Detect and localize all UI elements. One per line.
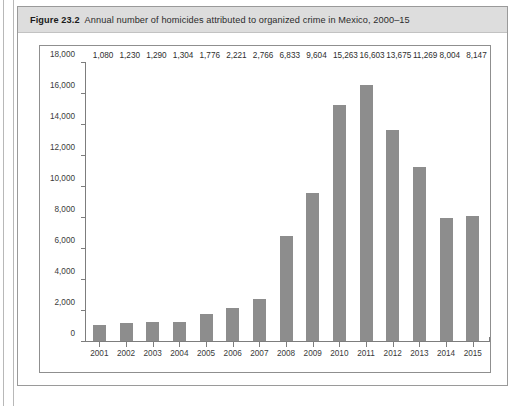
bar-value-label: 9,604 (306, 52, 327, 60)
x-axis-tick (179, 342, 180, 347)
bar[interactable]: 2,221 (226, 308, 239, 342)
x-axis-end-cap (489, 337, 490, 342)
bar[interactable]: 11,269 (413, 167, 426, 342)
x-axis-tick-label: 2005 (197, 349, 215, 358)
x-axis-tick (99, 342, 100, 347)
x-axis-tick-label: 2012 (384, 349, 402, 358)
figure-caption: Figure 23.2Annual number of homicides at… (30, 15, 410, 25)
x-axis-tick-label: 2015 (464, 349, 482, 358)
x-axis-tick (313, 342, 314, 347)
x-axis-tick (206, 342, 207, 347)
y-axis-tick-label: 10,000 (50, 174, 75, 183)
bar[interactable]: 6,833 (280, 236, 293, 342)
figure-container: Figure 23.2Annual number of homicides at… (17, 6, 508, 386)
x-axis-tick (233, 342, 234, 347)
x-axis-tick-label: 2009 (304, 349, 322, 358)
bar[interactable]: 1,304 (173, 322, 186, 342)
x-axis-tick (286, 342, 287, 347)
bar-slot: 2,2212006 (219, 63, 246, 342)
y-axis-tick-label: 18,000 (50, 50, 75, 59)
bar[interactable]: 1,290 (146, 322, 159, 342)
bar[interactable]: 8,147 (466, 216, 479, 342)
bar-slot: 1,2302002 (113, 63, 140, 342)
y-axis-tick-label: 4,000 (55, 267, 76, 276)
x-axis-tick (339, 342, 340, 347)
y-axis-tick-label: 2,000 (55, 298, 76, 307)
page-spine-outer-rule (3, 0, 4, 406)
bar-slot: 9,6042009 (299, 63, 326, 342)
x-axis-tick-label: 2003 (144, 349, 162, 358)
x-axis-tick-label: 2001 (90, 349, 108, 358)
x-axis-tick (259, 342, 260, 347)
x-axis-tick-label: 2010 (330, 349, 348, 358)
x-axis-tick (153, 342, 154, 347)
page-spine-inner-rule (13, 0, 14, 406)
y-axis-tick-label: 8,000 (55, 205, 76, 214)
chart-frame: 18,00016,00014,00012,00010,0008,0006,000… (39, 45, 491, 373)
bar[interactable]: 15,263 (333, 105, 346, 342)
bar[interactable]: 9,604 (306, 193, 319, 342)
bar-slot: 13,6752012 (379, 63, 406, 342)
x-axis-tick-label: 2011 (357, 349, 375, 358)
bar-value-label: 1,230 (120, 52, 141, 60)
bar[interactable]: 13,675 (386, 130, 399, 342)
x-axis-tick (366, 342, 367, 347)
bar-slot: 8,0042014 (433, 63, 460, 342)
bar[interactable]: 8,004 (440, 218, 453, 342)
y-axis-tick-label: 14,000 (50, 112, 75, 121)
y-axis-tick-label: 12,000 (50, 143, 75, 152)
bar[interactable]: 16,603 (360, 85, 373, 342)
x-axis-tick (419, 342, 420, 347)
plot-area: 18,00016,00014,00012,00010,0008,0006,000… (85, 63, 486, 342)
bar-value-label: 8,004 (440, 52, 461, 60)
y-axis-tick-label: 16,000 (50, 81, 75, 90)
bar-slot: 16,6032011 (353, 63, 380, 342)
bar-slot: 1,2902003 (139, 63, 166, 342)
bar-value-label: 15,263 (333, 52, 358, 60)
bar-value-label: 16,603 (360, 52, 385, 60)
y-axis-tick-label: 6,000 (55, 236, 76, 245)
figure-number: Figure 23.2 (30, 15, 80, 25)
bar-slot: 1,3042004 (166, 63, 193, 342)
bar[interactable]: 1,230 (120, 323, 133, 342)
figure-header-band: Figure 23.2Annual number of homicides at… (18, 7, 507, 33)
bar-value-label: 1,304 (173, 52, 194, 60)
x-axis-line (85, 341, 490, 342)
y-axis-tick-label: 0 (70, 329, 75, 338)
bar-value-label: 8,147 (466, 52, 487, 60)
bar-value-label: 1,080 (93, 52, 114, 60)
bar-value-label: 1,290 (146, 52, 167, 60)
bar-slot: 6,8332008 (273, 63, 300, 342)
bar-value-label: 13,675 (386, 52, 411, 60)
bar-value-label: 2,766 (253, 52, 274, 60)
x-axis-tick-label: 2007 (250, 349, 268, 358)
bar-slot: 8,1472015 (459, 63, 486, 342)
x-axis-tick-label: 2006 (224, 349, 242, 358)
bar[interactable]: 1,080 (93, 325, 106, 342)
bar-value-label: 2,221 (226, 52, 247, 60)
bar-value-label: 1,776 (200, 52, 221, 60)
x-axis-tick-label: 2002 (117, 349, 135, 358)
x-axis-tick (446, 342, 447, 347)
x-axis-tick (393, 342, 394, 347)
bar-value-label: 6,833 (280, 52, 301, 60)
x-axis-tick-label: 2013 (410, 349, 428, 358)
x-axis-tick (126, 342, 127, 347)
bar[interactable]: 1,776 (200, 314, 213, 342)
x-axis-tick-label: 2008 (277, 349, 295, 358)
figure-caption-text: Annual number of homicides attributed to… (85, 15, 410, 25)
bar-slot: 1,7762005 (193, 63, 220, 342)
bar-slot: 11,2692013 (406, 63, 433, 342)
x-axis-tick (473, 342, 474, 347)
bar-slot: 15,2632010 (326, 63, 353, 342)
x-axis-tick-label: 2004 (170, 349, 188, 358)
bar-slot: 2,7662007 (246, 63, 273, 342)
bar-value-label: 11,269 (413, 52, 437, 60)
bar[interactable]: 2,766 (253, 299, 266, 342)
bar-series: 1,08020011,23020021,29020031,30420041,77… (86, 63, 486, 342)
x-axis-tick-label: 2014 (437, 349, 455, 358)
bar-slot: 1,0802001 (86, 63, 113, 342)
